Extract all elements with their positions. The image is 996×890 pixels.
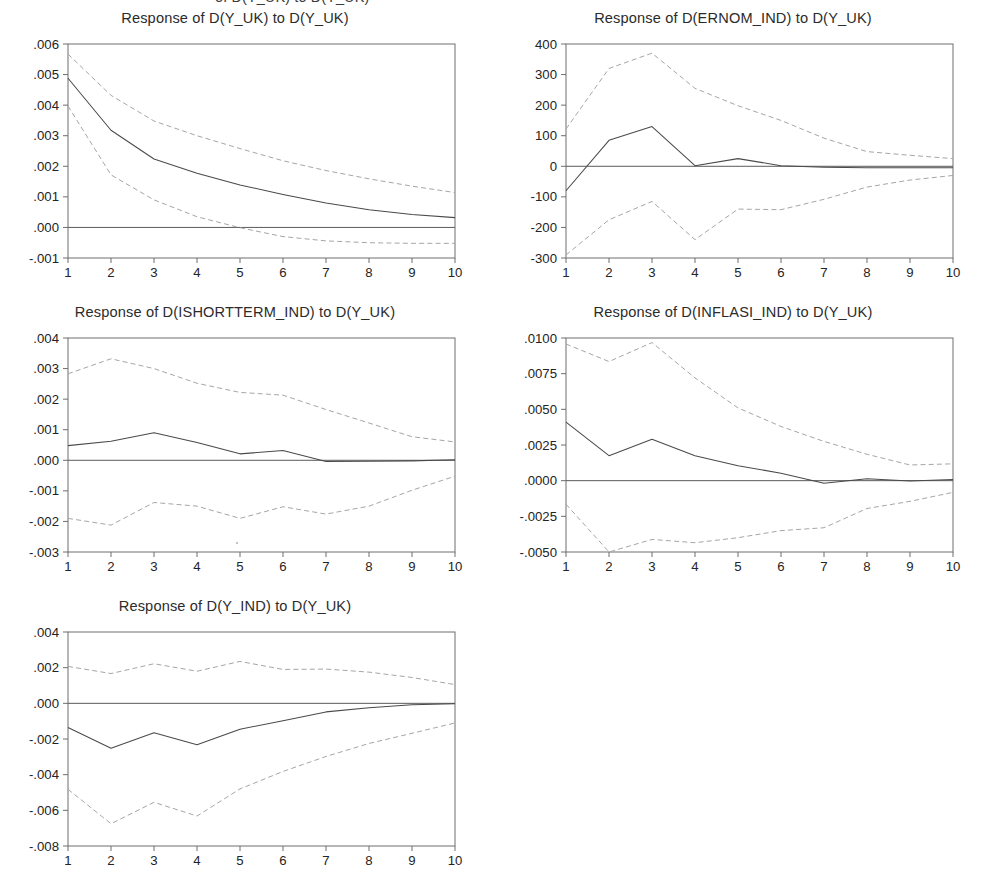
x-axis-tick-label: 7 [322, 853, 329, 868]
plot-area: 4003002001000-100-200-30012345678910 [498, 6, 996, 302]
x-axis-tick-label: 3 [648, 559, 655, 574]
x-axis-tick-label: 1 [64, 853, 71, 868]
panel-response-d-ishortterm-ind: Response of D(ISHORTTERM_IND) to D(Y_UK)… [0, 300, 498, 596]
x-axis-tick-label: 9 [906, 559, 913, 574]
x-axis-tick-label: 10 [448, 265, 463, 280]
x-axis-tick-label: 7 [322, 559, 329, 574]
series-line-confidence-band [566, 343, 953, 465]
x-axis-tick-label: 1 [562, 265, 569, 280]
y-axis-tick-label: .0050 [524, 402, 557, 417]
y-axis-tick-label: .0075 [524, 366, 557, 381]
series-line-response [68, 704, 455, 749]
y-axis-tick-label: 100 [535, 128, 557, 143]
y-axis-tick-label: .004 [33, 331, 59, 346]
y-axis-tick-label: 400 [535, 37, 557, 52]
y-axis-tick-label: .000 [33, 453, 59, 468]
x-axis-tick-label: 1 [64, 265, 71, 280]
x-axis-tick-label: 3 [150, 265, 157, 280]
x-axis-tick-label: 10 [448, 559, 463, 574]
x-axis-tick-label: 4 [691, 559, 698, 574]
x-axis-tick-label: 6 [279, 559, 286, 574]
plot-frame [566, 338, 953, 552]
y-axis-tick-label: -200 [531, 220, 557, 235]
plot-frame [566, 44, 953, 258]
clipped-header-text: of D(Y_UK) to D(Y_UK) [215, 0, 369, 5]
y-axis-tick-label: -.002 [29, 514, 59, 529]
y-axis-tick-label: -.001 [29, 483, 59, 498]
y-axis-tick-label: .004 [33, 98, 59, 113]
x-axis-tick-label: 5 [734, 559, 741, 574]
series-line-confidence-band [566, 175, 953, 254]
plot-area: .004.003.002.001.000-.001-.002-.00312345… [0, 300, 498, 596]
y-axis-tick-label: -300 [531, 251, 557, 266]
x-axis-tick-label: 3 [150, 853, 157, 868]
series-line-confidence-band [68, 54, 455, 192]
y-axis-tick-label: .003 [33, 128, 59, 143]
panel-response-d-y-uk: Response of D(Y_UK) to D(Y_UK) .006.005.… [0, 6, 498, 302]
x-axis-tick-label: 7 [322, 265, 329, 280]
y-axis-tick-label: .0025 [524, 438, 557, 453]
x-axis-tick-label: 9 [408, 853, 415, 868]
series-line-confidence-band [68, 476, 455, 525]
x-axis-tick-label: 8 [365, 265, 372, 280]
y-axis-tick-label: -.008 [29, 839, 59, 854]
plot-svg-4: .004.002.000-.002-.004-.006-.00812345678… [0, 594, 498, 890]
y-axis-tick-label: -.0050 [520, 545, 557, 560]
x-axis-tick-label: 7 [820, 559, 827, 574]
y-axis-tick-label: .000 [33, 696, 59, 711]
x-axis-tick-label: 6 [777, 265, 784, 280]
plot-frame [68, 44, 455, 258]
series-line-confidence-band [68, 661, 455, 684]
x-axis-tick-label: 2 [107, 265, 114, 280]
series-line-confidence-band [68, 359, 455, 442]
x-axis-tick-label: 8 [863, 265, 870, 280]
plot-area: .006.005.004.003.002.001.000-.0011234567… [0, 6, 498, 302]
x-axis-tick-label: 10 [946, 559, 961, 574]
y-axis-tick-label: .001 [33, 189, 59, 204]
x-axis-tick-label: 1 [64, 559, 71, 574]
y-axis-tick-label: .002 [33, 159, 59, 174]
x-axis-tick-label: 3 [648, 265, 655, 280]
x-axis-tick-label: 8 [365, 559, 372, 574]
series-line-response [566, 127, 953, 191]
x-axis-tick-label: 2 [605, 265, 612, 280]
plot-svg-3: .0100.0075.0050.0025.0000-.0025-.0050123… [498, 300, 996, 596]
plot-svg-2: .004.003.002.001.000-.001-.002-.00312345… [0, 300, 498, 596]
x-axis-tick-label: 7 [820, 265, 827, 280]
series-line-confidence-band [68, 723, 455, 824]
x-axis-tick-label: 9 [408, 559, 415, 574]
plot-svg-0: .006.005.004.003.002.001.000-.0011234567… [0, 6, 498, 302]
y-axis-tick-label: 200 [535, 98, 557, 113]
y-axis-tick-label: -.0025 [520, 509, 557, 524]
x-axis-tick-label: 2 [107, 853, 114, 868]
panel-response-d-y-ind: Response of D(Y_IND) to D(Y_UK) .004.002… [0, 594, 498, 890]
plot-area: .0100.0075.0050.0025.0000-.0025-.0050123… [498, 300, 996, 596]
scan-artifact-speck [236, 542, 238, 544]
x-axis-tick-label: 1 [562, 559, 569, 574]
panel-response-d-inflasi-ind: Response of D(INFLASI_IND) to D(Y_UK) .0… [498, 300, 996, 596]
x-axis-tick-label: 5 [734, 265, 741, 280]
y-axis-tick-label: 0 [550, 159, 557, 174]
series-line-confidence-band [566, 53, 953, 158]
x-axis-tick-label: 9 [408, 265, 415, 280]
x-axis-tick-label: 5 [236, 265, 243, 280]
y-axis-tick-label: -.004 [29, 767, 59, 782]
y-axis-tick-label: .0000 [524, 473, 557, 488]
plot-frame [68, 338, 455, 552]
x-axis-tick-label: 8 [863, 559, 870, 574]
x-axis-tick-label: 9 [906, 265, 913, 280]
y-axis-tick-label: .002 [33, 660, 59, 675]
impulse-response-figure: of D(Y_UK) to D(Y_UK) Response of D(Y_UK… [0, 0, 996, 890]
y-axis-tick-label: .004 [33, 625, 59, 640]
plot-svg-1: 4003002001000-100-200-30012345678910 [498, 6, 996, 302]
x-axis-tick-label: 2 [107, 559, 114, 574]
y-axis-tick-label: -.003 [29, 545, 59, 560]
series-line-confidence-band [566, 492, 953, 552]
plot-frame [68, 632, 455, 846]
y-axis-tick-label: -.006 [29, 803, 59, 818]
x-axis-tick-label: 6 [279, 265, 286, 280]
x-axis-tick-label: 4 [193, 265, 200, 280]
x-axis-tick-label: 2 [605, 559, 612, 574]
x-axis-tick-label: 5 [236, 559, 243, 574]
y-axis-tick-label: .002 [33, 392, 59, 407]
